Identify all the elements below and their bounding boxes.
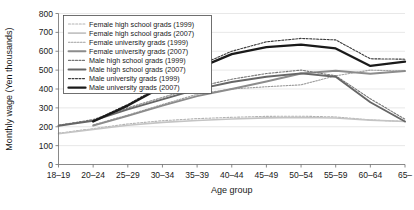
x-tick-label: 25–29 [116,170,140,180]
x-tick-label: 20–24 [81,170,105,180]
legend-label-2: Female university grads (1999) [89,38,188,47]
legend-label-4: Male high school grads (1999) [89,56,186,65]
y-tick-label: 0 [48,160,53,170]
y-tick-label: 300 [39,103,53,113]
y-axis-title: Monthly wage (Yen thousands) [4,27,14,150]
y-tick-label: 700 [39,27,53,37]
legend: Female high school grads (1999)Female hi… [64,16,212,94]
y-tick-label: 400 [39,84,53,94]
legend-label-7: Male university grads (2007) [89,83,180,92]
x-tick-label: 60–64 [359,170,383,180]
legend-label-1: Female high school grads (2007) [89,29,194,38]
x-tick-label: 65– [398,170,412,180]
x-axis-title: Age group [211,185,253,195]
legend-label-6: Male university grads (1999) [89,74,180,83]
y-axis-ticks-group: 0100200300400500600700800 [39,9,59,170]
x-tick-label: 35–39 [185,170,209,180]
x-tick-label: 30–34 [151,170,175,180]
x-tick-label: 40–44 [220,170,244,180]
y-tick-label: 200 [39,122,53,132]
x-tick-label: 50–54 [289,170,313,180]
y-tick-label: 600 [39,46,53,56]
legend-label-0: Female high school grads (1999) [89,20,194,29]
legend-label-5: Male high school grads (2007) [89,65,186,74]
chart-canvas: 0100200300400500600700800 18–1920–2425–2… [0,0,414,210]
x-tick-label: 55–59 [324,170,348,180]
legend-label-3: Female university grads (2007) [89,47,188,56]
x-tick-label: 45–49 [255,170,279,180]
wage-by-age-line-chart: 0100200300400500600700800 18–1920–2425–2… [0,0,414,210]
x-tick-label: 18–19 [47,170,71,180]
y-tick-label: 100 [39,141,53,151]
y-tick-label: 500 [39,65,53,75]
y-tick-label: 800 [39,9,53,19]
